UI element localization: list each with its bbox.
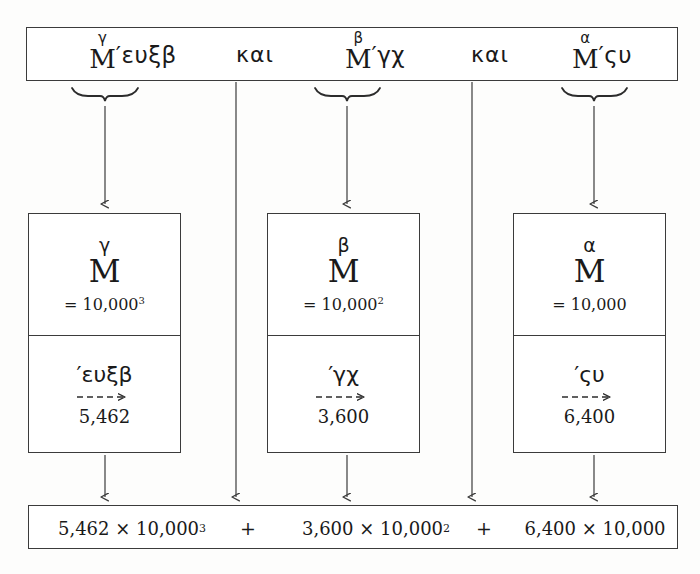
source-term-3: α M ′ςυ [527, 28, 677, 82]
operator-1: + [211, 506, 285, 550]
value-box-3-arabic-value: 6,400 [564, 408, 616, 426]
myriad-symbol-1: γ M [89, 39, 116, 72]
result-coefficient-3: 6,400 [524, 518, 576, 539]
value-box-3-multiplier: α M = 10,000 [514, 214, 665, 336]
value-box-1-power: 3 [139, 295, 145, 306]
value-box-2-base: M [328, 256, 360, 287]
value-box-1-equals-text: = 10,000 [64, 295, 138, 314]
value-box-2-greek-numeral: ′γχ [328, 364, 359, 386]
value-box-3-base: M [574, 256, 606, 287]
value-box-1-coefficient: ′ευξβ 5,462 [29, 336, 180, 453]
value-box-2-power: 2 [378, 295, 384, 306]
result-coefficient-1: 5,462 [58, 518, 110, 539]
source-expression-row: γ M ′ευξβ και β M ′γχ και α M ′ςυ [26, 27, 678, 81]
value-box-1-exponent: γ [99, 236, 110, 255]
value-box-3-equals-text: = 10,000 [552, 295, 626, 314]
result-product-2: 3,600 × 10,0002 [281, 506, 471, 550]
result-expression-row: 5,462 × 10,0003 + 3,600 × 10,0002 + 6,40… [28, 505, 678, 549]
source-term-1: γ M ′ευξβ [43, 28, 223, 82]
value-box-3: α M = 10,000 ′ςυ 6,400 [513, 213, 666, 453]
result-product-3: 6,400 × 10,000 [515, 506, 675, 550]
value-box-2-arabic-value: 3,600 [318, 408, 370, 426]
value-box-2-multiplier: β M = 10,0002 [268, 214, 419, 336]
value-box-3-greek-numeral: ′ςυ [574, 364, 605, 386]
value-box-2-equals: = 10,0002 [303, 296, 384, 313]
value-box-3-equals: = 10,000 [552, 296, 626, 313]
value-box-2-exponent: β [337, 236, 349, 255]
value-box-1-multiplier: γ M = 10,0003 [29, 214, 180, 336]
result-base-3: 10,000 [603, 518, 666, 539]
myriad-exponent-3: α [580, 31, 590, 46]
multiplication-sign-2: × [359, 518, 374, 539]
result-base-2: 10,000 [380, 518, 443, 539]
value-box-2-equals-text: = 10,000 [303, 295, 377, 314]
dashed-arrow-icon [560, 392, 620, 402]
dashed-arrow-icon [314, 392, 374, 402]
myriad-base-3: M [572, 44, 599, 74]
myriad-symbol-2: β M [345, 39, 372, 72]
multiplication-sign-3: × [582, 518, 597, 539]
source-numeral-3: ′ςυ [599, 44, 633, 67]
result-power-1: 3 [199, 522, 206, 535]
myriad-exponent-2: β [353, 31, 363, 46]
multiplication-sign-1: × [115, 518, 130, 539]
result-base-1: 10,000 [136, 518, 199, 539]
myriad-exponent-1: γ [98, 31, 107, 46]
source-term-2: β M ′γχ [290, 28, 460, 82]
myriad-base-1: M [89, 44, 116, 74]
value-box-3-exponent: α [583, 236, 596, 255]
operator-2: + [447, 506, 521, 550]
dashed-arrow-icon [75, 392, 135, 402]
value-box-1: γ M = 10,0003 ′ευξβ 5,462 [28, 213, 181, 453]
value-box-2-coefficient: ′γχ 3,600 [268, 336, 419, 453]
result-coefficient-2: 3,600 [302, 518, 354, 539]
greek-myriad-decomposition-diagram: γ M ′ευξβ και β M ′γχ και α M ′ςυ γ M = … [0, 0, 700, 574]
value-box-2: β M = 10,0002 ′γχ 3,600 [267, 213, 420, 453]
myriad-symbol-3: α M [572, 39, 599, 72]
result-product-1: 5,462 × 10,0003 [37, 506, 227, 550]
myriad-base-2: M [345, 44, 372, 74]
value-box-1-greek-numeral: ′ευξβ [77, 364, 133, 386]
value-box-1-equals: = 10,0003 [64, 296, 145, 313]
value-box-1-arabic-value: 5,462 [79, 408, 131, 426]
value-box-3-coefficient: ′ςυ 6,400 [514, 336, 665, 453]
source-numeral-1: ′ευξβ [116, 44, 177, 67]
conjunction-1: και [210, 28, 300, 82]
source-numeral-2: ′γχ [372, 44, 406, 67]
conjunction-2: και [445, 28, 535, 82]
value-box-1-base: M [89, 256, 121, 287]
